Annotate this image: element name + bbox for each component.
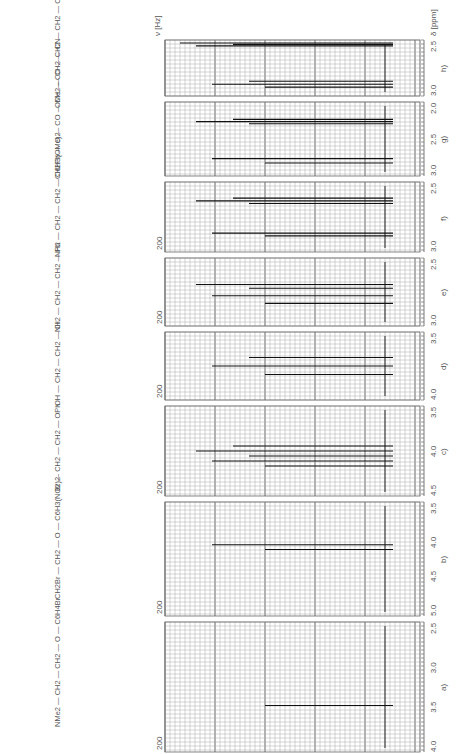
hz-tick-label: 200 bbox=[155, 384, 164, 398]
panel-label: f) bbox=[439, 216, 448, 221]
panel-label: e) bbox=[439, 289, 448, 296]
hz-axis-label: ν [Hz] bbox=[153, 16, 162, 36]
panel-c: 4.54.03.5c)200Br — CH2 — CH2 — OPh bbox=[53, 403, 448, 496]
ppm-tick-label: 3.0 bbox=[429, 240, 438, 252]
ppm-tick-label: 2.0 bbox=[429, 102, 438, 114]
panel-label: b) bbox=[439, 556, 448, 563]
molecule-structure: NMe2 — CH2 — CH2 — O — C6H4Br bbox=[53, 597, 62, 727]
panel-e: 3.02.5e)200NH2 — CH2 — CH2 — Ph bbox=[53, 243, 448, 332]
nmr-figure: ν [Hz]δ [ppm]3.02.5h)OMe — CO — CH2 — CH… bbox=[0, 0, 465, 754]
hz-tick-label: 200 bbox=[155, 310, 164, 324]
ppm-tick-label: 4.5 bbox=[429, 484, 438, 496]
ppm-tick-label: 4.0 bbox=[429, 445, 438, 457]
panel-label: g) bbox=[439, 136, 448, 143]
ppm-tick-label: 3.0 bbox=[429, 662, 438, 674]
hz-tick-label: 200 bbox=[155, 736, 164, 750]
ppm-tick-label: 3.5 bbox=[429, 332, 438, 344]
molecule-structure: CH2Br — CH2 — O — C6H3(NO2)2 bbox=[53, 477, 62, 599]
ppm-tick-label: 4.0 bbox=[429, 536, 438, 548]
panel-h: 3.02.5h)OMe — CO — CH2 — CH2 — CN bbox=[53, 0, 448, 108]
ppm-tick-label: 2.5 bbox=[429, 40, 438, 52]
hz-tick-label: 200 bbox=[155, 236, 164, 250]
ppm-tick-label: 2.5 bbox=[429, 133, 438, 145]
ppm-tick-label: 2.5 bbox=[429, 182, 438, 194]
panel-b: 5.04.54.03.5b)200CH2Br — CH2 — O — C6H3(… bbox=[53, 477, 448, 616]
ppm-tick-label: 2.5 bbox=[429, 622, 438, 634]
panel-label: c) bbox=[439, 448, 448, 455]
ppm-tick-label: 3.5 bbox=[429, 502, 438, 514]
ppm-axis-label: δ [ppm] bbox=[429, 9, 438, 36]
molecule-structure: NH2 — CH2 — CH2 — C6H3(OMe)2 bbox=[53, 132, 62, 257]
ppm-tick-label: 3.0 bbox=[429, 314, 438, 326]
panel-d: 4.03.5d)200OH — CH2 — CH2 — Cl bbox=[53, 322, 448, 406]
ppm-tick-label: 3.0 bbox=[429, 164, 438, 176]
ppm-tick-label: 4.5 bbox=[429, 570, 438, 582]
ppm-tick-label: 2.5 bbox=[429, 258, 438, 270]
panel-g: 3.02.52.0g)CH2Ph — O — CO — CH2 — CH2 — … bbox=[53, 39, 448, 179]
ppm-tick-label: 3.5 bbox=[429, 701, 438, 713]
ppm-tick-label: 3.0 bbox=[429, 84, 438, 96]
panel-label: a) bbox=[439, 684, 448, 691]
ppm-tick-label: 4.0 bbox=[429, 388, 438, 400]
hz-tick-label: 200 bbox=[155, 600, 164, 614]
panel-label: d) bbox=[439, 363, 448, 370]
panel-f: 3.02.5f)200NH2 — CH2 — CH2 — C6H3(OMe)2 bbox=[53, 132, 448, 257]
hz-tick-label: 200 bbox=[155, 480, 164, 494]
molecule-structure: OH — CH2 — CH2 — Cl bbox=[53, 322, 62, 406]
panel-label: h) bbox=[439, 65, 448, 72]
ppm-tick-label: 5.0 bbox=[429, 604, 438, 616]
spectra-chart: ν [Hz]δ [ppm]3.02.5h)OMe — CO — CH2 — CH… bbox=[0, 0, 465, 754]
ppm-tick-label: 3.5 bbox=[429, 406, 438, 418]
panel-a: 4.03.53.02.5a)200NMe2 — CH2 — CH2 — O — … bbox=[53, 597, 448, 752]
ppm-tick-label: 4.0 bbox=[429, 740, 438, 752]
molecule-structure: NH2 — CH2 — CH2 — Ph bbox=[53, 243, 62, 332]
